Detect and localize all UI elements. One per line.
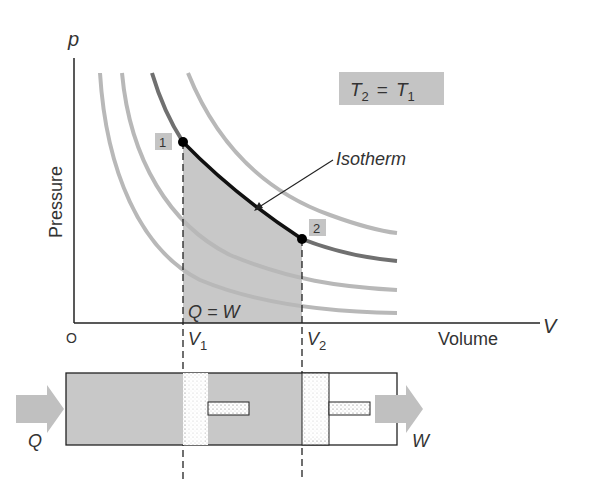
- piston-cylinder: [66, 373, 397, 445]
- v1-label: V1: [188, 329, 207, 353]
- y-axis-symbol: p: [67, 28, 79, 50]
- heat-input-arrow: [16, 385, 64, 433]
- piston-final-face: [305, 378, 326, 438]
- isotherm-curve-main: [152, 73, 183, 142]
- isotherm-pointer-line: [256, 160, 333, 209]
- x-axis-label: Volume: [438, 329, 498, 349]
- point-1-label: 1: [159, 135, 166, 150]
- heat-input-label: Q: [28, 431, 42, 451]
- piston-initial-face: [186, 376, 205, 442]
- piston-rod-initial: [208, 402, 249, 415]
- origin-label: O: [66, 330, 77, 346]
- piston-rod-final: [329, 402, 370, 415]
- point-2-label: 2: [313, 221, 320, 236]
- isotherm-curve-main-tail: [302, 239, 397, 261]
- v2-label: V2: [307, 329, 326, 353]
- y-axis-label: Pressure: [46, 166, 66, 238]
- work-output-arrow: [375, 385, 423, 433]
- isotherm-label: Isotherm: [336, 149, 406, 169]
- work-output-label: W: [412, 431, 431, 451]
- state-point-2: [297, 234, 307, 244]
- area-label: Q = W: [188, 302, 242, 322]
- state-point-1: [178, 137, 188, 147]
- x-axis-symbol: V: [543, 315, 558, 337]
- isothermal-process-diagram: p V O Pressure Volume V1 V2 Q = W 1 2 Is…: [0, 0, 598, 480]
